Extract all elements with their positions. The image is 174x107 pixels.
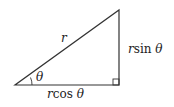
right-angle-marker: [113, 79, 119, 85]
angle-label: θ: [36, 70, 44, 84]
hypotenuse-label: r: [61, 31, 68, 45]
opposite-side-label: rsin θ: [128, 42, 163, 56]
adjacent-side-label: rcos θ: [47, 87, 85, 101]
angle-arc: [31, 78, 33, 86]
triangle: [15, 10, 119, 85]
triangle-diagram: r θ rsin θ rcos θ: [0, 0, 174, 107]
